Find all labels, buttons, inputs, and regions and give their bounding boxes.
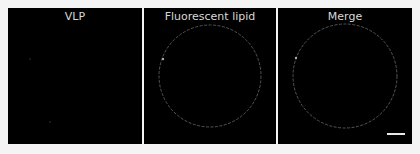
panel-merge: Merge <box>278 8 412 144</box>
vlp-dots <box>8 8 142 144</box>
vesicle-ring <box>278 8 412 144</box>
panel-vlp: VLP <box>8 8 142 144</box>
scale-bar <box>387 133 405 135</box>
panel-fluorescent-lipid: Fluorescent lipid <box>144 8 276 144</box>
vesicle-ring <box>144 8 276 144</box>
